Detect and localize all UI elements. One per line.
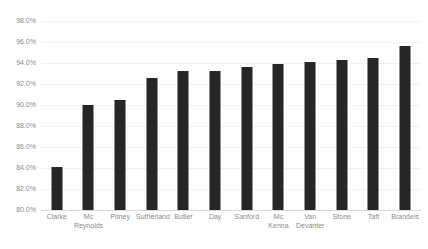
x-axis-tick-label: Sutherland — [136, 212, 168, 221]
x-axis-tick-label: Brandeis — [389, 212, 421, 221]
bar-slot — [41, 21, 73, 210]
y-axis-tick-label: 90.0% — [0, 101, 36, 109]
bar[interactable] — [400, 46, 411, 210]
bar-slot — [104, 21, 136, 210]
bar-slot — [326, 21, 358, 210]
bars-group — [41, 21, 421, 210]
x-axis-tick-label: Taft — [358, 212, 390, 221]
x-axis-tick-label: Day — [199, 212, 231, 221]
y-axis-tick-label: 80.0% — [0, 206, 36, 214]
bar[interactable] — [273, 64, 284, 210]
bar-slot — [231, 21, 263, 210]
bar-slot — [263, 21, 295, 210]
y-axis-tick-label: 84.0% — [0, 164, 36, 172]
bar[interactable] — [146, 78, 157, 210]
bar-slot — [199, 21, 231, 210]
x-axis-tick-label: Mc Kenna — [263, 212, 295, 230]
bar-slot — [358, 21, 390, 210]
bar-slot — [389, 21, 421, 210]
y-axis-tick-label: 88.0% — [0, 122, 36, 130]
y-axis-tick-label: 92.0% — [0, 80, 36, 88]
y-axis-tick-label: 86.0% — [0, 143, 36, 151]
x-axis-tick-label: Pitney — [104, 212, 136, 221]
y-axis-tick-label: 96.0% — [0, 38, 36, 46]
bar[interactable] — [210, 71, 221, 210]
plot-area — [41, 21, 421, 210]
x-axis-tick-labels: ClarkeMc ReynoldsPitneySutherlandButlerD… — [41, 212, 421, 249]
x-axis-tick-label: Clarke — [41, 212, 73, 221]
bar[interactable] — [241, 67, 252, 210]
x-axis-tick-label: Mc Reynolds — [73, 212, 105, 230]
x-axis-tick-label: Stone — [326, 212, 358, 221]
y-axis-tick-label: 94.0% — [0, 59, 36, 67]
bar-slot — [294, 21, 326, 210]
bar[interactable] — [305, 62, 316, 210]
bar[interactable] — [115, 100, 126, 210]
bar-chart: 98.0%96.0%94.0%92.0%90.0%88.0%86.0%84.0%… — [0, 0, 428, 249]
x-axis-tick-label: Sanford — [231, 212, 263, 221]
bar[interactable] — [368, 58, 379, 210]
x-axis-tick-label: Van Devanter — [294, 212, 326, 230]
bar[interactable] — [178, 71, 189, 210]
y-axis-tick-label: 98.0% — [0, 17, 36, 25]
axis-baseline — [41, 210, 421, 211]
bar-slot — [168, 21, 200, 210]
bar[interactable] — [336, 60, 347, 210]
bar[interactable] — [83, 105, 94, 210]
bar-slot — [136, 21, 168, 210]
y-axis-tick-label: 82.0% — [0, 185, 36, 193]
bar[interactable] — [51, 167, 62, 210]
bar-slot — [73, 21, 105, 210]
x-axis-tick-label: Butler — [168, 212, 200, 221]
